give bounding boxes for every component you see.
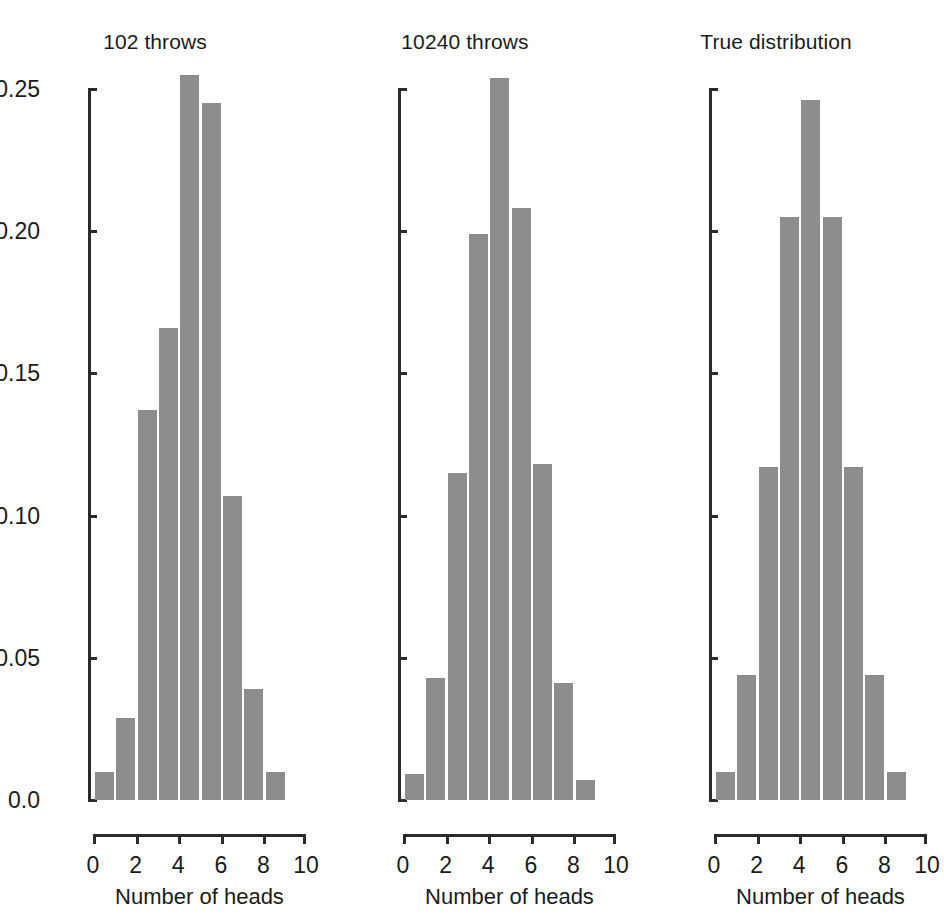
x-axis-tick-label: 4: [172, 852, 185, 879]
x-axis-tick-label: 0: [708, 852, 721, 879]
histogram-bar: [576, 780, 595, 800]
histogram-bar: [823, 217, 842, 800]
histogram-bar: [116, 718, 135, 800]
histogram-bar: [469, 234, 488, 800]
x-axis-tick-label: 10: [914, 852, 940, 879]
x-axis-tick-label: 0: [397, 852, 410, 879]
x-axis-tick: [799, 834, 802, 844]
x-axis-tick: [303, 834, 306, 844]
histogram-bar: [138, 410, 157, 800]
histogram-bar: [887, 772, 906, 800]
plot-area: [310, 0, 620, 919]
x-axis-title: Number of heads: [363, 884, 656, 910]
histogram-bar: [554, 683, 573, 800]
x-axis-tick: [757, 834, 760, 844]
x-axis-tick: [573, 834, 576, 844]
x-axis-tick: [924, 834, 927, 844]
x-axis-tick: [488, 834, 491, 844]
histogram-bar: [426, 678, 445, 800]
x-axis-title: Number of heads: [53, 884, 346, 910]
x-axis-tick-label: 2: [750, 852, 763, 879]
histogram-bar: [405, 774, 424, 800]
chart-panel-3: True distribution0246810Number of heads: [621, 0, 931, 919]
x-axis-tick: [403, 834, 406, 844]
x-axis-tick-label: 2: [129, 852, 142, 879]
histogram-bar: [780, 217, 799, 800]
x-axis-tick: [136, 834, 139, 844]
histogram-bar: [716, 772, 735, 800]
plot-area: [621, 0, 931, 919]
histogram-bar: [202, 103, 221, 800]
x-axis-tick-label: 2: [439, 852, 452, 879]
x-axis-tick: [446, 834, 449, 844]
x-axis-line: [403, 834, 616, 837]
x-axis-line: [714, 834, 927, 837]
plot-area: [0, 0, 310, 919]
x-axis-tick-label: 0: [87, 852, 100, 879]
x-axis-tick-label: 4: [482, 852, 495, 879]
x-axis-tick: [221, 834, 224, 844]
histogram-bar: [844, 467, 863, 800]
histogram-bar: [223, 496, 242, 800]
histogram-bar: [801, 100, 820, 800]
histogram-bar: [512, 208, 531, 800]
histogram-bar: [759, 467, 778, 800]
x-axis-tick: [93, 834, 96, 844]
x-axis-tick-label: 8: [878, 852, 891, 879]
x-axis-tick: [531, 834, 534, 844]
histogram-bar: [533, 464, 552, 800]
histogram-bar: [159, 328, 178, 800]
x-axis-tick: [714, 834, 717, 844]
x-axis-tick-label: 6: [524, 852, 537, 879]
histogram-bar: [737, 675, 756, 800]
x-axis-tick: [178, 834, 181, 844]
x-axis-title: Number of heads: [674, 884, 944, 910]
x-axis-tick: [842, 834, 845, 844]
histogram-bar: [448, 473, 467, 800]
x-axis-line: [93, 834, 306, 837]
x-axis-tick: [613, 834, 616, 844]
histogram-bar: [266, 772, 285, 800]
chart-panel-2: 10240 throws0246810Number of heads: [310, 0, 620, 919]
x-axis-tick-label: 8: [567, 852, 580, 879]
histogram-bar: [95, 772, 114, 800]
chart-panel-1: 102 throws0.00.050.100.150.200.250246810…: [0, 0, 310, 919]
x-axis-tick-label: 8: [257, 852, 270, 879]
x-axis-tick-label: 6: [835, 852, 848, 879]
x-axis-tick: [884, 834, 887, 844]
x-axis-tick-label: 4: [793, 852, 806, 879]
histogram-bar: [180, 75, 199, 800]
x-axis-tick-label: 6: [214, 852, 227, 879]
histogram-bar: [865, 675, 884, 800]
x-axis-tick: [263, 834, 266, 844]
histogram-bar: [244, 689, 263, 800]
histogram-bar: [490, 78, 509, 800]
